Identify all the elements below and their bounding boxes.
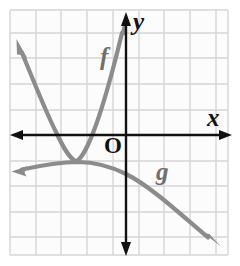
- graph-figure: y x f g O: [0, 0, 240, 266]
- x-axis-label: x: [207, 105, 220, 130]
- origin-label: O: [104, 134, 122, 157]
- curve-g-label: g: [156, 159, 169, 184]
- y-axis-label: y: [133, 9, 144, 34]
- curve-f-label: f: [100, 44, 108, 69]
